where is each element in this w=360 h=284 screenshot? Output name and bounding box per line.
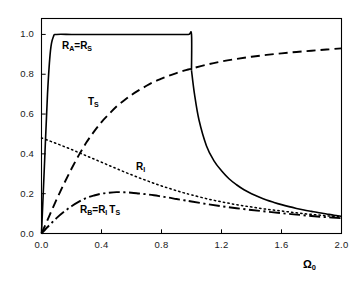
x-tick-label-1: 0.4 bbox=[87, 239, 117, 250]
x-tick-label-3: 1.2 bbox=[207, 239, 237, 250]
curve-label-rb: RB=RI TS bbox=[80, 204, 120, 215]
x-tick-label-2: 0.8 bbox=[147, 239, 177, 250]
y-tick-label-3: 0.6 bbox=[8, 108, 34, 119]
x-tick-label-5: 2.0 bbox=[327, 239, 357, 250]
x-axis-title: Ω0 bbox=[303, 258, 316, 270]
y-tick-label-2: 0.4 bbox=[8, 148, 34, 159]
y-tick-label-0: 0.0 bbox=[8, 228, 34, 239]
y-tick-label-4: 0.8 bbox=[8, 68, 34, 79]
x-tick-label-4: 1.6 bbox=[267, 239, 297, 250]
figure-container: 0.0 0.2 0.4 0.6 0.8 1.0 0.0 0.4 0.8 1.2 … bbox=[0, 0, 360, 284]
curve-label-ri: RI bbox=[136, 161, 145, 172]
y-tick-label-5: 1.0 bbox=[8, 28, 34, 39]
curve-r-a-r-s bbox=[192, 70, 342, 216]
x-tick-label-0: 0.0 bbox=[27, 239, 57, 250]
curve-label-ts: TS bbox=[88, 96, 99, 107]
y-tick-label-1: 0.2 bbox=[8, 188, 34, 199]
curve-label-ra-rs: RA=RS bbox=[62, 40, 92, 51]
